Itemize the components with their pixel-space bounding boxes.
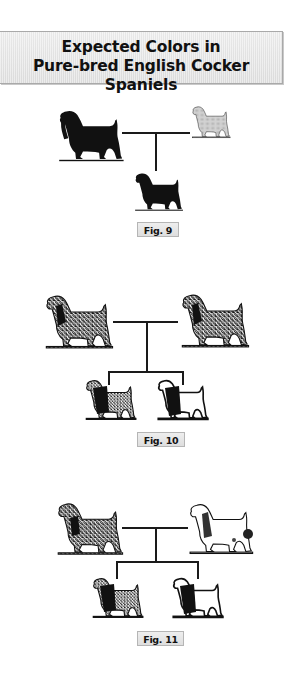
parent-dog-roan-icon (178, 291, 250, 351)
title-banner: Expected Colors in Pure-bred English Coc… (0, 31, 283, 84)
title-line-2: Pure-bred English Cocker Spaniels (0, 57, 282, 95)
title-line-1: Expected Colors in (0, 38, 282, 57)
fig-11-label: Fig. 11 (137, 631, 184, 646)
offspring-branch-line (108, 371, 184, 373)
fig-9-label: Fig. 9 (137, 222, 179, 237)
offspring-dog-parti-icon (170, 576, 224, 620)
fig-10-label: Fig. 10 (137, 432, 185, 447)
parent-dog-roan-icon (54, 500, 124, 558)
parent-dog-roan-icon (42, 292, 114, 352)
offspring-branch-line (116, 561, 199, 563)
offspring-dog-roan-icon (90, 576, 144, 620)
parent-dog-ticked-icon (186, 500, 254, 558)
offspring-connector-line (155, 528, 157, 562)
offspring-connector-line (146, 322, 148, 372)
offspring-connector-line (155, 133, 157, 171)
offspring-dog-black-icon (132, 170, 184, 214)
parent-dog-black-icon (55, 108, 125, 164)
offspring-dog-roan-icon (83, 378, 137, 422)
parent-dog-golden-icon (190, 104, 254, 158)
offspring-dog-parti-icon (155, 378, 209, 422)
